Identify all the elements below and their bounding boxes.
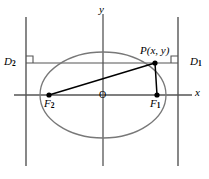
directrix-label-d1-subscript: 1	[198, 59, 202, 68]
right-angle-marker-right	[171, 56, 178, 63]
directrix-label-d1: D1	[190, 56, 202, 68]
directrix-label-d2-text: D	[4, 55, 12, 67]
point-marker-p	[152, 60, 157, 65]
focus-label-f1: F1	[150, 98, 160, 110]
directrix-label-d2-subscript: 2	[12, 59, 16, 68]
y-axis-label: y	[99, 4, 104, 15]
focus-label-f2-text: F	[44, 97, 51, 109]
right-angle-marker-left	[26, 56, 33, 63]
focal-radius-f1-p	[155, 63, 157, 95]
directrix-label-d2: D2	[4, 56, 16, 68]
focus-label-f2-subscript: 2	[51, 101, 55, 110]
focus-label-f1-subscript: 1	[157, 101, 161, 110]
focus-label-f1-text: F	[150, 97, 157, 109]
origin-label: O	[99, 90, 106, 100]
point-label-p: P(x, y)	[140, 45, 169, 56]
ellipse-figure: D2 D1 F2 F1 P(x, y) x y O	[0, 0, 209, 179]
focus-label-f2: F2	[44, 98, 54, 110]
x-axis-label: x	[195, 87, 200, 98]
directrix-label-d1-text: D	[190, 55, 198, 67]
